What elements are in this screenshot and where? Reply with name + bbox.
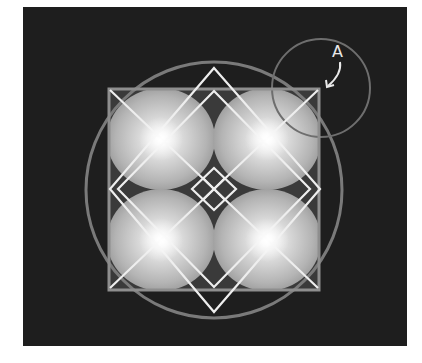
label-a: A [332, 42, 343, 61]
geometry-diagram: A [0, 0, 422, 363]
